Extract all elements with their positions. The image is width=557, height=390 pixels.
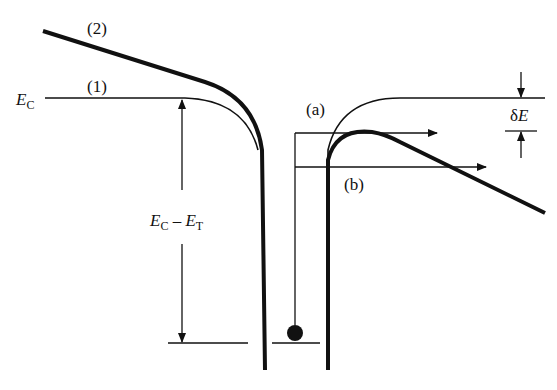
electron-dot [287,325,303,341]
gap-sub2: T [196,219,203,233]
label-ec-minus-et: EC – ET [150,212,203,232]
label-curve-1: (1) [87,78,107,95]
label-path-b: (b) [344,176,364,193]
gap-e1: E [150,211,160,230]
curve-1-left [45,98,258,150]
label-delta-e: δE [510,107,528,124]
label-ec: EC [16,91,34,111]
label-curve-2: (2) [87,20,107,37]
label-path-a: (a) [306,101,325,118]
label-ec-sub: C [26,98,34,112]
diagram-graphic [0,0,557,390]
delta-e-var: E [518,106,528,125]
curve-1-right [328,98,545,370]
label-ec-main: E [16,90,26,109]
band-diagram: (2) (1) EC EC – ET (a) (b) δE [0,0,557,390]
curve-2-left [43,31,265,370]
delta-symbol: δ [510,106,518,125]
gap-e2: E [185,211,195,230]
gap-minus: – [168,211,185,230]
